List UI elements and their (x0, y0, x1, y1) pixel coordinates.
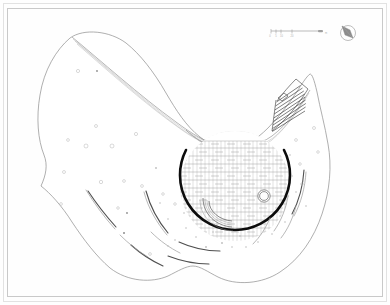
drawing-sheet: 0 5 10 20 m (0, 0, 390, 305)
fountain-inner (260, 192, 269, 201)
scale-unit-label: m (325, 32, 327, 35)
